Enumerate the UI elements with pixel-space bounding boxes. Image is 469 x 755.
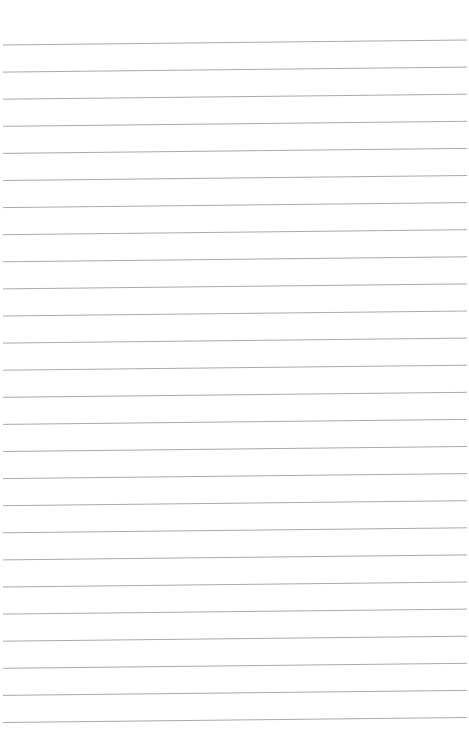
ruled-line bbox=[3, 663, 467, 668]
ruled-paper bbox=[0, 0, 469, 755]
ruled-line bbox=[3, 419, 467, 424]
ruled-line bbox=[3, 474, 467, 479]
ruled-line bbox=[3, 690, 467, 695]
ruled-line bbox=[3, 447, 467, 452]
ruled-line bbox=[3, 94, 467, 99]
ruled-line bbox=[3, 582, 467, 587]
ruled-line bbox=[3, 284, 467, 289]
ruled-line bbox=[3, 121, 467, 126]
ruled-line bbox=[3, 311, 467, 316]
ruled-line bbox=[3, 501, 467, 506]
ruled-line bbox=[3, 40, 467, 45]
ruled-line bbox=[3, 528, 467, 533]
ruled-line bbox=[3, 636, 467, 641]
ruled-line bbox=[3, 203, 467, 208]
ruled-line bbox=[3, 148, 467, 153]
ruled-line bbox=[3, 555, 467, 560]
ruled-line bbox=[3, 609, 467, 614]
ruled-line bbox=[3, 67, 467, 72]
ruled-lines bbox=[0, 0, 469, 755]
ruled-line bbox=[3, 392, 467, 397]
ruled-line bbox=[3, 257, 467, 262]
ruled-line bbox=[3, 230, 467, 235]
ruled-line bbox=[3, 338, 467, 343]
ruled-line bbox=[3, 176, 467, 181]
ruled-line bbox=[3, 365, 467, 370]
ruled-line bbox=[3, 718, 467, 723]
